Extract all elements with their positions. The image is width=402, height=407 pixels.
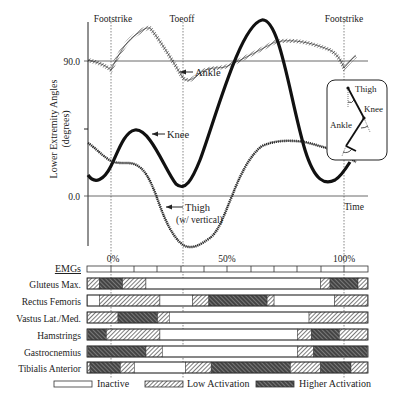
emg-segment-low bbox=[88, 362, 90, 373]
emg-segment-low bbox=[358, 278, 367, 289]
emg-segment-inactive bbox=[88, 295, 100, 306]
muscle-label-hamstrings: Hamstrings bbox=[37, 331, 81, 341]
emg-segment-low bbox=[267, 295, 274, 306]
emg-segment-high bbox=[88, 346, 146, 357]
ankle-curve bbox=[88, 28, 356, 80]
legend-label-high: Higher Activation bbox=[299, 378, 371, 389]
thigh-label-sub: (w/ vertical) bbox=[176, 215, 223, 226]
pct-100-label: 100% bbox=[333, 254, 355, 264]
emg-segment-high bbox=[118, 312, 158, 323]
legend: Inactive Low Activation Higher Activatio… bbox=[54, 378, 371, 389]
emg-segment-inactive bbox=[160, 295, 193, 306]
muscle-label-gluteus: Gluteus Max. bbox=[29, 280, 81, 290]
y-axis-title-line1: Lower Extremity Angles bbox=[48, 79, 59, 178]
emg-segment-low bbox=[123, 278, 146, 289]
joint-angle-inset: Thigh Knee Ankle bbox=[327, 80, 387, 160]
plot-axes bbox=[84, 22, 368, 378]
emg-bars bbox=[87, 278, 368, 373]
emg-header: EMGs bbox=[55, 263, 81, 274]
thigh-label: Thigh bbox=[185, 202, 211, 213]
emg-segment-inactive bbox=[274, 295, 335, 306]
footstrike-start-label: Footstrike bbox=[94, 14, 133, 24]
legend-label-low: Low Activation bbox=[187, 378, 250, 389]
legend-label-inactive: Inactive bbox=[97, 378, 130, 389]
emg-segment-low bbox=[88, 312, 118, 323]
emg-segment-inactive bbox=[160, 329, 297, 340]
emg-row bbox=[87, 362, 368, 373]
emg-segment-high bbox=[311, 329, 339, 340]
y-axis-title-line2: (degrees) bbox=[60, 110, 72, 147]
gait-diagram: Footstrike Toeoff Footstrike 90.0 0.0 Lo… bbox=[0, 0, 402, 407]
emg-segment-low bbox=[339, 329, 367, 340]
emg-segment-low bbox=[158, 312, 170, 323]
emg-segment-low bbox=[297, 329, 311, 340]
muscle-label-tibialis: Tibialis Anterior bbox=[18, 364, 82, 374]
thigh-curve bbox=[88, 141, 356, 247]
legend-swatch-high bbox=[256, 381, 294, 387]
inset-thigh-label: Thigh bbox=[355, 84, 377, 94]
emg-segment-low bbox=[106, 329, 160, 340]
footstrike-end-label: Footstrike bbox=[325, 14, 364, 24]
emg-scale-bar bbox=[87, 266, 368, 272]
muscle-label-vastus: Vastus Lat./Med. bbox=[16, 314, 81, 324]
emg-segment-high bbox=[209, 295, 267, 306]
time-label: Time bbox=[344, 202, 364, 212]
ankle-label: Ankle bbox=[195, 67, 221, 78]
thigh-label-group: Thigh (w/ vertical) bbox=[166, 202, 223, 226]
toeoff-label: Toeoff bbox=[169, 14, 195, 24]
emg-segment-inactive bbox=[134, 362, 185, 373]
y-axis-title: Lower Extremity Angles (degrees) bbox=[48, 79, 72, 178]
emg-segment-high bbox=[90, 362, 120, 373]
inset-ankle-label: Ankle bbox=[330, 120, 352, 130]
emg-segment-low bbox=[321, 278, 330, 289]
emg-row bbox=[87, 346, 368, 357]
ankle-label-group: Ankle bbox=[180, 67, 221, 78]
inset-knee-label: Knee bbox=[364, 104, 383, 114]
emg-segment-high bbox=[88, 329, 107, 340]
emg-segment-low bbox=[146, 346, 162, 357]
emg-row bbox=[87, 295, 368, 306]
emg-segment-high bbox=[211, 362, 290, 373]
emg-segment-high bbox=[314, 346, 368, 357]
thigh-curve-outline bbox=[88, 141, 356, 247]
emg-segment-low bbox=[193, 295, 209, 306]
emg-row bbox=[87, 278, 368, 289]
knee-label-group: Knee bbox=[152, 129, 189, 140]
emg-segment-low bbox=[290, 362, 320, 373]
muscle-label-gastrocnemius: Gastrocnemius bbox=[24, 348, 81, 358]
emg-segment-high bbox=[321, 362, 351, 373]
emg-segment-inactive bbox=[146, 278, 321, 289]
emg-segment-low bbox=[297, 346, 313, 357]
emg-row bbox=[87, 312, 368, 323]
y-tick-0: 0.0 bbox=[68, 192, 80, 202]
legend-swatch-inactive bbox=[54, 381, 92, 387]
emg-segment-low bbox=[351, 362, 367, 373]
emg-segment-high bbox=[330, 278, 358, 289]
muscle-label-rectus: Rectus Femoris bbox=[22, 297, 82, 307]
ankle-curve-outline bbox=[88, 28, 356, 80]
emg-segment-low bbox=[99, 295, 160, 306]
emg-segment-inactive bbox=[169, 312, 309, 323]
pct-0-label: 0% bbox=[107, 254, 120, 264]
y-tick-90: 90.0 bbox=[63, 57, 80, 67]
emg-segment-low bbox=[120, 362, 134, 373]
emg-segment-low bbox=[309, 312, 367, 323]
emg-row bbox=[87, 329, 368, 340]
emg-segment-inactive bbox=[162, 346, 297, 357]
emg-segment-low bbox=[186, 362, 212, 373]
emg-segment-low bbox=[335, 295, 368, 306]
pct-50-label: 50% bbox=[218, 254, 236, 264]
emg-segment-low bbox=[88, 278, 100, 289]
legend-swatch-low bbox=[145, 381, 183, 387]
emg-segment-high bbox=[99, 278, 122, 289]
knee-label: Knee bbox=[167, 129, 189, 140]
